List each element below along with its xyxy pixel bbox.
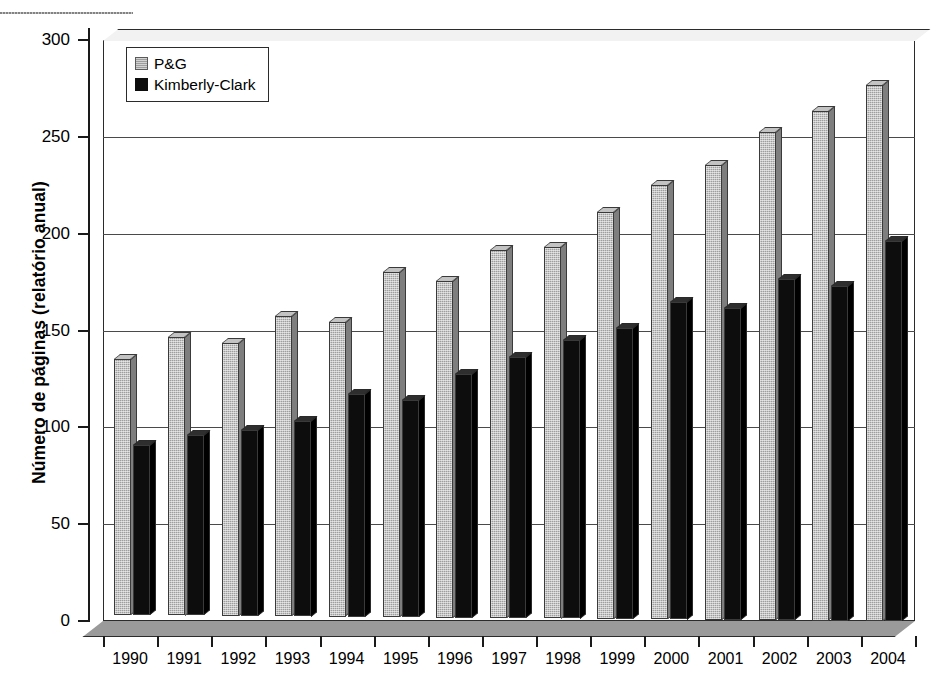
bar-p-g-1998: [544, 247, 561, 619]
chart-legend: P&G Kimberly-Clark: [126, 47, 269, 102]
bar-p-g-2000: [651, 185, 668, 619]
bar-front-face: [114, 359, 131, 615]
bar-kimberly-clark-1995: [402, 400, 419, 617]
y-axis-tick: [78, 426, 89, 428]
bar-kimberly-clark-2003: [831, 286, 848, 621]
bar-kimberly-clark-2001: [724, 308, 741, 620]
bar-side-face: [741, 303, 747, 620]
bar-kimberly-clark-1998: [563, 340, 580, 619]
bar-front-face: [133, 445, 150, 615]
bar-kimberly-clark-2000: [670, 302, 687, 620]
y-axis-tick-label: 250: [8, 127, 70, 147]
legend-item-pg: P&G: [135, 53, 256, 74]
x-axis-tick: [211, 636, 213, 647]
bar-front-face: [241, 430, 258, 616]
bar-front-face: [812, 111, 829, 620]
gridline: [103, 137, 915, 138]
x-axis-tick-label-1995: 1995: [371, 650, 431, 668]
x-axis-tick-label-1990: 1990: [100, 650, 160, 668]
bar-side-face: [687, 297, 693, 620]
y-axis-tick-label: 0: [8, 611, 70, 631]
y-axis-tick-label: 50: [8, 514, 70, 534]
x-axis-tick: [590, 636, 592, 647]
x-axis-tick: [320, 636, 322, 647]
bar-front-face: [329, 322, 346, 616]
y-axis-tick: [78, 620, 89, 622]
plot-top-face: [103, 29, 930, 41]
x-axis-tick-label-2003: 2003: [804, 650, 864, 668]
bar-side-face: [150, 439, 156, 614]
y-axis-tick-label: 150: [8, 321, 70, 341]
legend-swatch-kimberly-clark-icon: [135, 78, 148, 91]
bar-side-face: [311, 416, 317, 617]
bar-front-face: [168, 337, 185, 616]
bar-kimberly-clark-1994: [348, 394, 365, 617]
bar-front-face: [616, 328, 633, 619]
bar-front-face: [402, 400, 419, 617]
x-axis-tick-label-2001: 2001: [696, 650, 756, 668]
bar-p-g-1995: [383, 272, 400, 617]
y-axis-tick: [78, 233, 89, 235]
bar-kimberly-clark-1999: [616, 328, 633, 619]
x-axis-tick-label-1994: 1994: [317, 650, 377, 668]
bar-front-face: [509, 357, 526, 618]
legend-swatch-pg-icon: [135, 57, 148, 70]
y-axis-tick-label: 100: [8, 417, 70, 437]
x-axis-tick-label-1992: 1992: [208, 650, 268, 668]
x-axis-tick: [157, 636, 159, 647]
bar-front-face: [670, 302, 687, 620]
bar-front-face: [705, 165, 722, 620]
x-axis-tick: [861, 636, 863, 647]
x-axis-tick-label-1997: 1997: [479, 650, 539, 668]
x-axis-tick: [482, 636, 484, 647]
bar-front-face: [866, 85, 883, 621]
bar-kimberly-clark-1997: [509, 357, 526, 618]
bar-p-g-2004: [866, 85, 883, 621]
x-axis-tick: [374, 636, 376, 647]
plot-floor: [83, 621, 915, 637]
bar-front-face: [563, 340, 580, 619]
legend-label-pg: P&G: [154, 55, 187, 73]
bar-side-face: [419, 395, 425, 617]
x-axis-tick: [753, 636, 755, 647]
x-axis-tick: [428, 636, 430, 647]
bar-front-face: [294, 421, 311, 617]
bar-front-face: [759, 132, 776, 620]
bar-front-face: [383, 272, 400, 617]
bar-side-face: [365, 389, 371, 617]
bar-front-face: [597, 212, 614, 619]
x-axis-tick-label-2000: 2000: [641, 650, 701, 668]
bar-kimberly-clark-1992: [241, 430, 258, 616]
bar-front-face: [778, 279, 795, 620]
bar-kimberly-clark-2002: [778, 279, 795, 620]
bar-side-face: [258, 425, 264, 616]
bar-front-face: [831, 286, 848, 621]
x-axis-tick: [536, 636, 538, 647]
bar-kimberly-clark-1990: [133, 445, 150, 615]
bar-side-face: [633, 323, 639, 619]
bar-p-g-1997: [490, 250, 507, 618]
bar-p-g-1996: [436, 281, 453, 618]
plot-area: 050100150200250300 199019911992199319941…: [103, 40, 915, 621]
y-axis-tick-label: 300: [8, 30, 70, 50]
bar-kimberly-clark-1996: [455, 374, 472, 618]
x-axis-tick-label-1991: 1991: [154, 650, 214, 668]
legend-item-kimberly-clark: Kimberly-Clark: [135, 74, 256, 95]
plot-left-face: [89, 29, 103, 621]
bar-front-face: [455, 374, 472, 618]
bar-p-g-2001: [705, 165, 722, 620]
bar-p-g-1991: [168, 337, 185, 616]
y-axis-tick-label: 200: [8, 224, 70, 244]
x-axis-tick: [103, 636, 105, 647]
bar-side-face: [526, 351, 532, 617]
y-axis-tick: [78, 523, 89, 525]
gridline: [103, 234, 915, 235]
bar-front-face: [724, 308, 741, 620]
bar-front-face: [490, 250, 507, 618]
bar-p-g-2002: [759, 132, 776, 620]
y-axis-line: [88, 28, 90, 622]
bar-side-face: [580, 334, 586, 618]
bar-p-g-1999: [597, 212, 614, 619]
bar-chart-figure: Número de páginas (relatório anual) 0501…: [0, 0, 934, 675]
y-axis-tick: [78, 136, 89, 138]
